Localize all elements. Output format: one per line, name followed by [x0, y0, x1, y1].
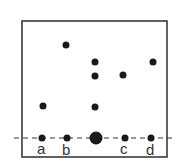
point [120, 72, 127, 79]
scatter-points [40, 42, 157, 111]
label-b: b [62, 141, 70, 158]
label-a: a [37, 140, 46, 157]
baseline-points [39, 132, 155, 145]
point [150, 59, 157, 66]
label-c: c [120, 140, 128, 157]
point [92, 59, 99, 66]
point [63, 42, 70, 49]
diagram-canvas: a b c d [0, 0, 184, 167]
point [92, 104, 99, 111]
label-d: d [146, 141, 154, 158]
point [92, 73, 99, 80]
point [40, 103, 47, 110]
baseline-point-large [90, 132, 103, 145]
